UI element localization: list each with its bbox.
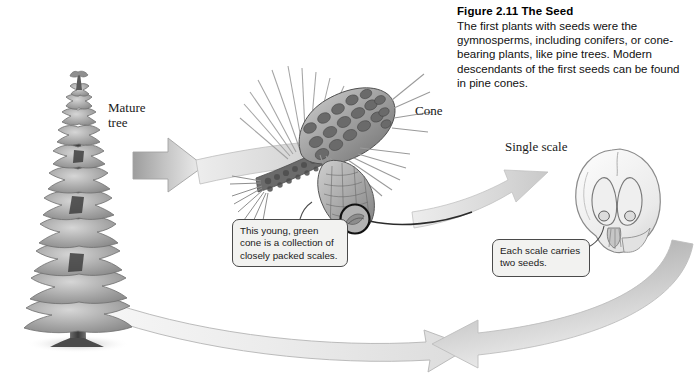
label-cone: Cone <box>415 103 442 118</box>
callout-each-scale-two-seeds: Each scale carries two seeds. <box>492 239 590 277</box>
flow-arrow-cone-to-scale <box>412 170 548 228</box>
figure-caption-body: The first plants with seeds were the gym… <box>457 19 691 90</box>
flow-arrow-bottom-return <box>100 303 470 372</box>
figure-caption: Figure 2.11 The Seed The first plants wi… <box>457 4 691 90</box>
single-scale-illustration <box>576 149 661 253</box>
figure-container: Figure 2.11 The Seed The first plants wi… <box>0 0 695 373</box>
figure-caption-title: Figure 2.11 The Seed <box>457 4 691 18</box>
label-mature-tree: Mature tree <box>108 100 146 130</box>
label-single-scale: Single scale <box>505 139 567 154</box>
callout-young-green-cone: This young, green cone is a collection o… <box>232 219 348 267</box>
